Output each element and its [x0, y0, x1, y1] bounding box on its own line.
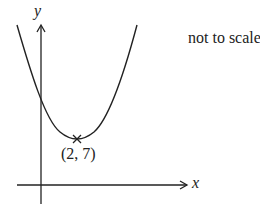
y-axis-label: y [34, 2, 41, 20]
vertex-label: (2, 7) [61, 145, 96, 163]
parabola-curve [17, 25, 137, 139]
x-axis-label: x [192, 174, 199, 192]
scale-note: not to scale [188, 29, 260, 47]
